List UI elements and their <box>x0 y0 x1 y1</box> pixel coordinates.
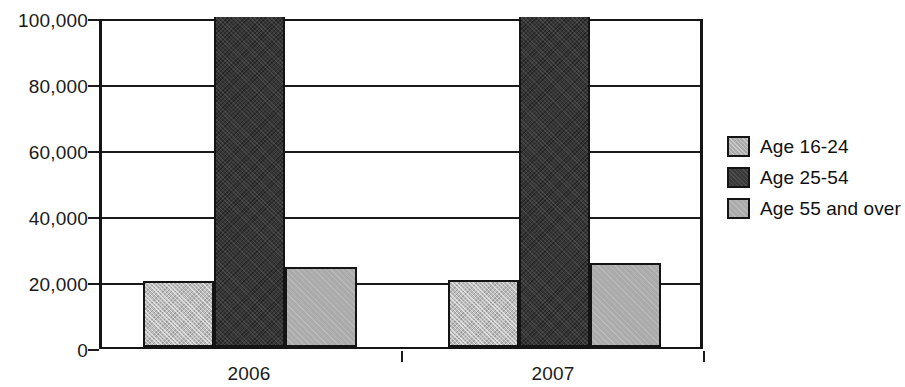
legend-label-age-25-54: Age 25-54 <box>760 168 849 187</box>
legend-label-age-55-and-over: Age 55 and over <box>760 199 901 218</box>
bar-2007-age-55-and-over <box>590 263 661 347</box>
y-tick-label-80000: 80,000 <box>29 77 88 96</box>
bar-2006-age-16-24 <box>143 281 214 347</box>
legend-item-age-16-24: Age 16-24 <box>727 131 901 162</box>
y-tick-label-0: 0 <box>77 341 88 360</box>
y-tick-mark-100000 <box>88 19 99 21</box>
gridline-40000 <box>102 217 700 219</box>
legend-swatch-age-16-24 <box>727 136 750 157</box>
gridline-80000 <box>102 85 700 87</box>
x-tick-mark-group-divider <box>401 351 403 362</box>
legend-swatch-age-55-and-over <box>727 198 750 219</box>
y-axis-labels: 100,000 80,000 60,000 40,000 20,000 0 <box>0 0 88 387</box>
y-tick-mark-0 <box>88 349 99 351</box>
bar-2006-age-25-54 <box>214 17 285 347</box>
bar-2007-age-25-54 <box>519 17 590 347</box>
y-tick-mark-60000 <box>88 151 99 153</box>
legend-label-age-16-24: Age 16-24 <box>760 137 849 156</box>
x-category-label-2006: 2006 <box>199 364 299 383</box>
y-tick-label-40000: 40,000 <box>29 209 88 228</box>
x-tick-mark-right-end <box>703 351 705 362</box>
legend-swatch-age-25-54 <box>727 167 750 188</box>
y-tick-label-60000: 60,000 <box>29 143 88 162</box>
gridline-60000 <box>102 151 700 153</box>
bar-2006-age-55-and-over <box>285 267 357 347</box>
legend-item-age-25-54: Age 25-54 <box>727 162 901 193</box>
bar-chart: 100,000 80,000 60,000 40,000 20,000 0 20… <box>0 0 905 387</box>
y-tick-mark-40000 <box>88 217 99 219</box>
chart-legend: Age 16-24 Age 25-54 Age 55 and over <box>727 131 901 224</box>
y-tick-label-20000: 20,000 <box>29 275 88 294</box>
y-tick-mark-20000 <box>88 283 99 285</box>
y-tick-label-100000: 100,000 <box>18 11 88 30</box>
x-category-label-2007: 2007 <box>503 364 603 383</box>
y-tick-mark-80000 <box>88 85 99 87</box>
legend-item-age-55-and-over: Age 55 and over <box>727 193 901 224</box>
plot-area <box>99 19 703 349</box>
bar-2007-age-16-24 <box>448 280 519 347</box>
